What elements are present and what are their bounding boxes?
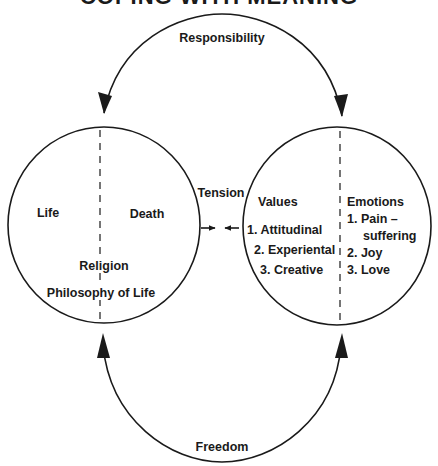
emotions-heading: Emotions [347, 195, 404, 209]
emotion-item-continued: suffering [363, 229, 416, 243]
emotion-item: 2. Joy [347, 246, 382, 260]
death-label: Death [130, 207, 165, 221]
religion-label: Religion [79, 259, 128, 273]
arrowhead-right-down-icon [334, 94, 348, 117]
diagram-title: COPING WITH MEANING [80, 0, 358, 9]
values-heading: Values [258, 195, 298, 209]
arrowhead-right-up-icon [335, 333, 348, 358]
life-label: Life [37, 206, 59, 220]
tension-label: Tension [198, 186, 245, 200]
emotion-item: 1. Pain – [347, 212, 398, 226]
responsibility-arc [104, 14, 342, 116]
emotion-item: 3. Love [347, 263, 390, 277]
value-item: 3. Creative [260, 263, 323, 277]
responsibility-label: Responsibility [179, 31, 264, 45]
freedom-label: Freedom [196, 440, 249, 454]
value-item: 2. Experiental [254, 243, 335, 257]
arrowhead-left-up-icon [97, 333, 110, 358]
arrowhead-left-down-icon [98, 92, 112, 114]
coping-with-meaning-diagram: COPING WITH MEANING Responsibility Life … [0, 0, 438, 466]
value-item: 1. Attitudinal [247, 223, 322, 237]
philosophy-of-life-label: Philosophy of Life [47, 286, 155, 300]
